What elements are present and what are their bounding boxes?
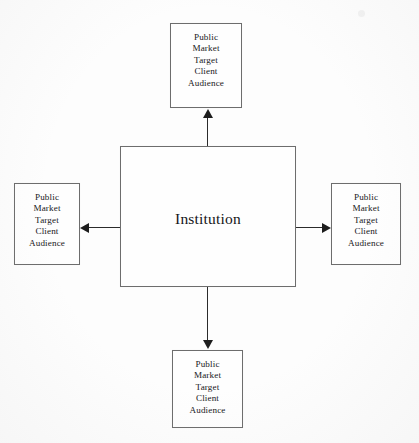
arrow-down-line xyxy=(207,287,208,341)
arrow-right-head-icon xyxy=(322,223,331,233)
node-box-center-institution: Institution xyxy=(120,146,296,287)
node-label-top: Public Market Target Client Audience xyxy=(171,24,241,89)
scan-smudge-icon xyxy=(358,10,365,17)
arrow-right-line xyxy=(296,227,322,228)
arrow-left-head-icon xyxy=(80,223,89,233)
node-label-right: Public Market Target Client Audience xyxy=(332,184,400,249)
node-box-right: Public Market Target Client Audience xyxy=(331,183,401,265)
node-box-top: Public Market Target Client Audience xyxy=(170,23,242,108)
arrow-up-head-icon xyxy=(203,109,213,118)
node-box-bottom: Public Market Target Client Audience xyxy=(172,350,243,428)
node-label-center: Institution xyxy=(175,210,241,228)
arrow-left-line xyxy=(89,227,120,228)
node-label-left: Public Market Target Client Audience xyxy=(15,184,79,249)
arrow-down-head-icon xyxy=(203,340,213,349)
arrow-up-line xyxy=(207,117,208,146)
diagram-canvas: Public Market Target Client Audience Pub… xyxy=(0,0,419,443)
scan-artifact xyxy=(297,1,349,10)
node-label-bottom: Public Market Target Client Audience xyxy=(173,351,242,416)
node-box-left: Public Market Target Client Audience xyxy=(14,183,80,265)
